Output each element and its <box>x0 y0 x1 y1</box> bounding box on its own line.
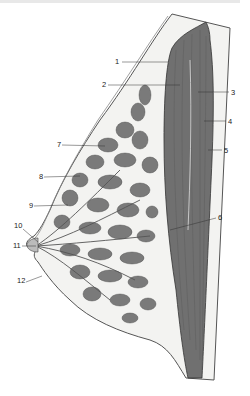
label-1: 1 <box>115 58 119 66</box>
label-5: 5 <box>224 147 228 155</box>
label-10: 10 <box>14 222 22 230</box>
label-7: 7 <box>57 141 61 149</box>
label-8: 8 <box>39 173 43 181</box>
label-9: 9 <box>29 202 33 210</box>
label-12: 12 <box>17 277 25 285</box>
label-2: 2 <box>102 81 106 89</box>
label-3: 3 <box>231 89 235 97</box>
label-6: 6 <box>218 214 222 222</box>
label-4: 4 <box>228 118 232 126</box>
label-11: 11 <box>13 242 21 250</box>
breast-anatomy-diagram <box>0 0 250 396</box>
